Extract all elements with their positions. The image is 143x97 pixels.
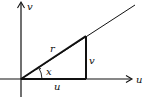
- vertical-axis-label: v: [27, 1, 33, 12]
- opposite-label: v: [89, 55, 95, 66]
- polar-coordinate-diagram: v u r v x u: [0, 0, 143, 97]
- adjacent-label: u: [54, 81, 60, 92]
- horizontal-axis-label: u: [136, 74, 142, 85]
- vertical-axis: [18, 2, 25, 97]
- angle-arc: [37, 67, 43, 79]
- hypotenuse-label: r: [50, 43, 56, 54]
- angle-label: x: [46, 66, 52, 77]
